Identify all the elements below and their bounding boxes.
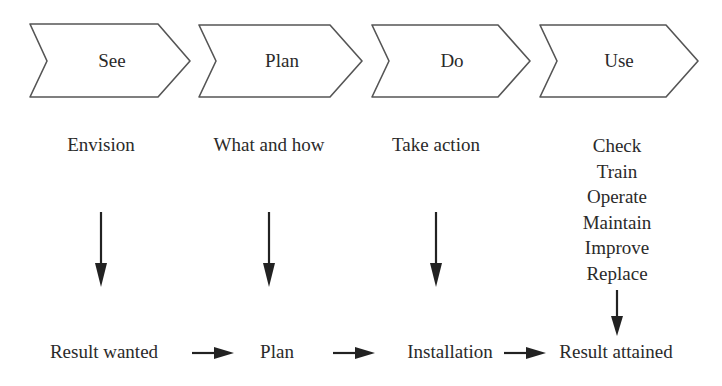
use-item-train: Train <box>583 159 652 185</box>
down-arrow-icon <box>611 290 623 336</box>
use-item-operate: Operate <box>583 184 652 210</box>
down-arrow-icon <box>430 212 442 287</box>
use-activities-list: Check Train Operate Maintain Improve Rep… <box>583 133 652 286</box>
stage-label-see: See <box>98 50 125 72</box>
result-attained: Result attained <box>559 341 672 363</box>
result-installation: Installation <box>407 341 492 363</box>
result-plan: Plan <box>260 341 294 363</box>
stage-label-plan: Plan <box>265 50 299 72</box>
down-arrow-icon <box>263 212 275 287</box>
right-arrow-icon <box>192 347 234 359</box>
description-what-and-how: What and how <box>214 134 325 156</box>
right-arrow-icon <box>504 347 546 359</box>
use-item-maintain: Maintain <box>583 210 652 236</box>
stage-label-use: Use <box>604 50 634 72</box>
stage-label-do: Do <box>440 50 463 72</box>
right-arrow-icon <box>333 347 375 359</box>
description-take-action: Take action <box>392 134 480 156</box>
use-item-check: Check <box>583 133 652 159</box>
description-envision: Envision <box>67 134 135 156</box>
down-arrow-icon <box>95 212 107 287</box>
result-wanted: Result wanted <box>50 341 158 363</box>
use-item-replace: Replace <box>583 261 652 287</box>
use-item-improve: Improve <box>583 235 652 261</box>
